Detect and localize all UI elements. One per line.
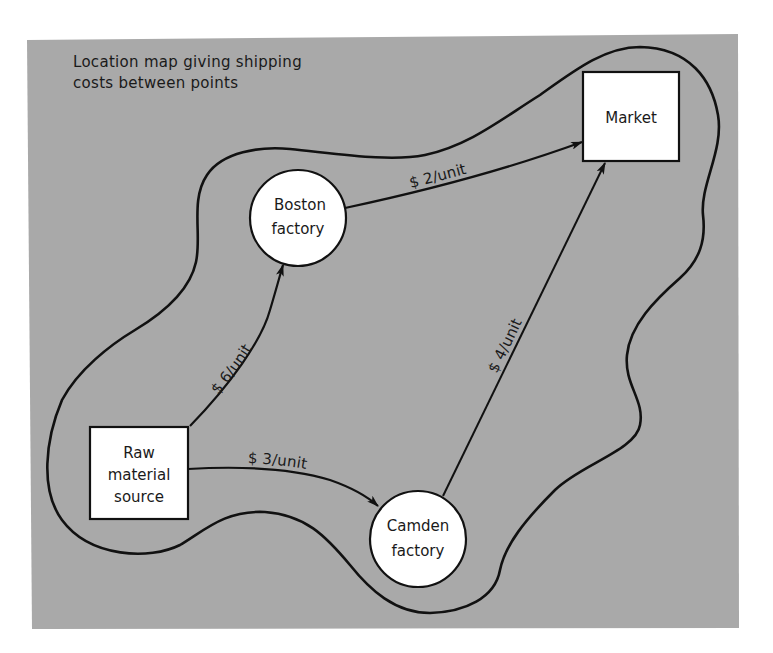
- svg-text:material: material: [108, 466, 171, 484]
- svg-text:Camden: Camden: [387, 517, 450, 535]
- map-title-line-1: Location map giving shipping: [73, 53, 302, 71]
- node-raw-material-source: Raw material source: [90, 427, 188, 519]
- map-title-line-2: costs between points: [73, 74, 238, 92]
- node-boston-factory: Boston factory: [250, 170, 346, 266]
- svg-text:factory: factory: [272, 220, 325, 238]
- node-camden-factory: Camden factory: [370, 491, 466, 587]
- svg-text:source: source: [114, 488, 164, 506]
- svg-text:Market: Market: [605, 109, 657, 127]
- location-map-diagram: Location map giving shipping costs betwe…: [0, 0, 773, 653]
- svg-text:factory: factory: [392, 542, 445, 560]
- svg-text:Raw: Raw: [123, 444, 155, 462]
- svg-text:Boston: Boston: [274, 196, 326, 214]
- node-market: Market: [583, 72, 679, 161]
